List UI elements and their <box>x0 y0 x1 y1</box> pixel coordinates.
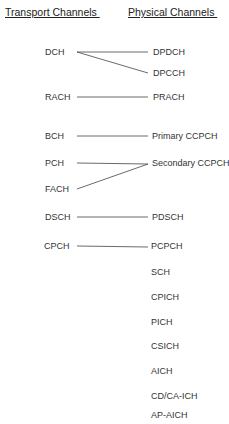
link-dch-dpcch <box>77 52 148 73</box>
mapping-lines <box>0 0 229 424</box>
physical-channel-pcpch: PCPCH <box>151 241 183 252</box>
transport-channel-dsch: DSCH <box>45 212 71 223</box>
transport-channel-dch: DCH <box>45 47 65 58</box>
physical-channel-cd-ca-ich: CD/CA-ICH <box>151 391 198 402</box>
physical-channel-sch: SCH <box>151 267 170 278</box>
transport-channel-rach: RACH <box>45 92 71 103</box>
transport-channel-bch: BCH <box>45 131 64 142</box>
physical-channel-cpich: CPICH <box>151 292 179 303</box>
transport-channel-pch: PCH <box>45 158 64 169</box>
physical-channel-ap-aich: AP-AICH <box>151 410 188 421</box>
link-pch-secondary-ccpch <box>77 163 148 164</box>
physical-channel-primary-ccpch: Primary CCPCH <box>152 131 218 142</box>
physical-channel-aich: AICH <box>151 366 173 377</box>
physical-channel-csich: CSICH <box>151 341 179 352</box>
transport-channel-fach: FACH <box>45 184 69 195</box>
physical-channel-dpcch: DPCCH <box>153 68 185 79</box>
link-cpch-pcpch <box>77 246 148 247</box>
physical-channel-pdsch: PDSCH <box>152 212 184 223</box>
physical-channel-secondary-ccpch: Secondary CCPCH <box>152 158 229 169</box>
physical-channel-prach: PRACH <box>153 92 185 103</box>
link-fach-secondary-ccpch <box>77 164 148 189</box>
physical-channel-dpdch: DPDCH <box>153 47 185 58</box>
physical-channel-pich: PICH <box>151 317 173 328</box>
transport-channel-cpch: CPCH <box>44 241 70 252</box>
